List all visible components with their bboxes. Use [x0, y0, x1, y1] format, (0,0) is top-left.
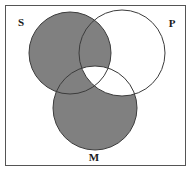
venn-diagram-figure: S P M — [0, 0, 193, 173]
set-label-m: M — [89, 151, 100, 163]
set-label-p: P — [169, 17, 176, 29]
venn-diagram-canvas: S P M — [0, 0, 193, 173]
set-label-s: S — [18, 16, 24, 28]
